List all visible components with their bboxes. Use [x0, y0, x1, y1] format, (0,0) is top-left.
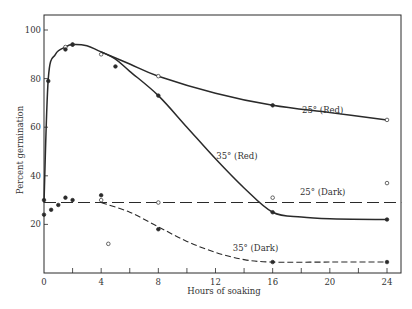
data-point [385, 118, 389, 122]
plot-border [44, 15, 401, 273]
data-point [46, 79, 50, 83]
data-point [114, 65, 118, 69]
data-point [271, 260, 275, 264]
x-tick-label: 8 [156, 277, 161, 287]
plot-frame [44, 15, 401, 273]
data-point [71, 43, 75, 47]
data-point [157, 74, 161, 78]
series-line [44, 45, 387, 203]
series-label: 25° (Red) [302, 105, 343, 115]
data-point [107, 242, 111, 246]
y-tick-label: 80 [30, 74, 41, 84]
y-tick-label: 20 [30, 219, 41, 229]
y-tick-label: 40 [30, 171, 41, 181]
x-tick-label: 4 [98, 277, 103, 287]
data-point [56, 203, 60, 207]
data-point [71, 198, 75, 202]
y-axis-title: Percent germination [15, 105, 25, 194]
data-point [385, 218, 389, 222]
data-point [64, 196, 68, 200]
data-point [157, 201, 161, 205]
data-point [271, 210, 275, 214]
series-label: 35° (Dark) [233, 243, 279, 253]
series-2 [44, 181, 401, 204]
data-point [64, 48, 68, 52]
data-point [271, 196, 275, 200]
data-point [49, 208, 53, 212]
x-tick-label: 16 [267, 277, 278, 287]
series-0 [44, 43, 389, 203]
data-point [157, 227, 161, 231]
axis-ticks: 0481216202420406080100 [25, 25, 393, 287]
data-point [99, 193, 103, 197]
series-3 [42, 193, 389, 263]
x-axis-title: Hours of soaking [187, 286, 261, 296]
data-point [42, 198, 46, 202]
data-point [271, 104, 275, 108]
x-tick-label: 24 [382, 277, 393, 287]
data-point [42, 213, 46, 217]
data-point [99, 198, 103, 202]
data-point [157, 94, 161, 98]
x-tick-label: 20 [324, 277, 335, 287]
series-label: 35° (Red) [216, 151, 257, 161]
y-tick-label: 60 [30, 122, 41, 132]
y-tick-label: 100 [25, 25, 41, 35]
x-tick-label: 0 [41, 277, 46, 287]
series-line [101, 203, 387, 263]
germination-chart: 0481216202420406080100 25° (Red)35° (Red… [0, 0, 412, 309]
data-point [385, 260, 389, 264]
series-label: 25° (Dark) [300, 187, 346, 197]
data-point [385, 181, 389, 185]
